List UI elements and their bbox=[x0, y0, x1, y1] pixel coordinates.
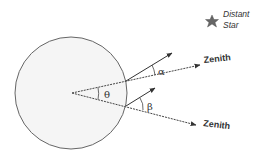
parallax-diagram: θ α β Zenith Zenith Distant Star bbox=[0, 0, 266, 159]
zenith-lower-label: Zenith bbox=[203, 118, 231, 131]
beta-arc bbox=[140, 98, 143, 110]
beta-label: β bbox=[147, 101, 153, 112]
zenith-upper-label: Zenith bbox=[203, 52, 231, 65]
star-icon bbox=[206, 15, 219, 27]
alpha-label: α bbox=[158, 66, 165, 77]
alpha-arc bbox=[152, 65, 155, 75]
upper-star-direction bbox=[126, 53, 172, 81]
distant-star-label-line2: Star bbox=[223, 20, 240, 30]
theta-label: θ bbox=[104, 89, 110, 100]
earth-circle bbox=[15, 37, 127, 149]
distant-star-label-line1: Distant bbox=[223, 9, 250, 19]
